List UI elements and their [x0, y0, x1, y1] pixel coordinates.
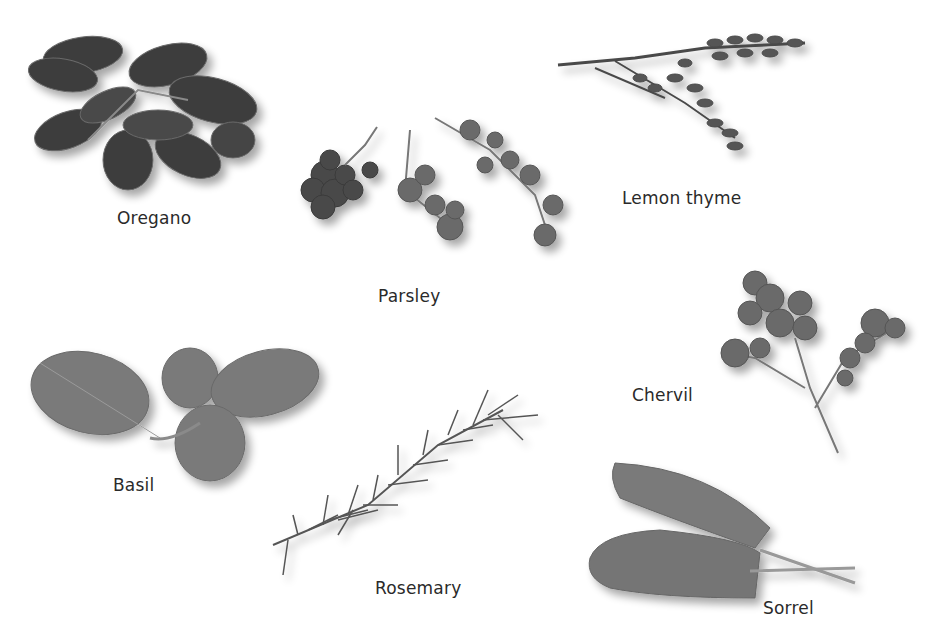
parsley-image [295, 115, 570, 250]
parsley-label: Parsley [378, 286, 440, 306]
sorrel-image [580, 458, 880, 603]
basil-label: Basil [113, 475, 154, 495]
oregano-label: Oregano [117, 208, 191, 228]
chervil-label: Chervil [632, 385, 693, 405]
rosemary-label: Rosemary [375, 578, 461, 598]
sorrel-label: Sorrel [763, 598, 814, 618]
oregano-image [18, 30, 258, 190]
lemon-thyme-image [555, 28, 815, 158]
rosemary-image [268, 385, 543, 580]
chervil-image [715, 268, 915, 453]
lemon-thyme-label: Lemon thyme [622, 188, 742, 208]
